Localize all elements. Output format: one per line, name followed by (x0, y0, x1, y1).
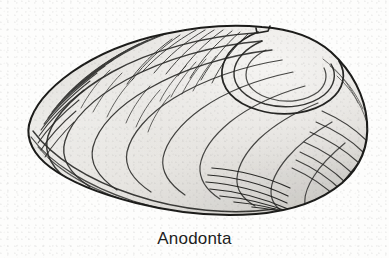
figure-container: Anodonta (0, 0, 389, 258)
anodonta-shell-illustration (0, 0, 389, 258)
figure-caption: Anodonta (0, 228, 389, 250)
